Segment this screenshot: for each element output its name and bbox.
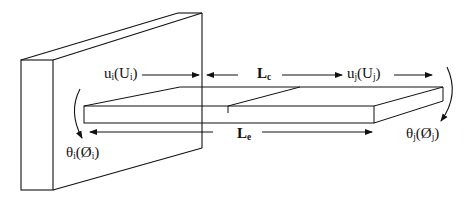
label-le: Le — [237, 126, 251, 143]
label-uj: uj(Uj) — [347, 66, 381, 83]
wall-top-left-edge — [21, 13, 178, 60]
beam-element — [84, 87, 443, 123]
label-theta-i: θi(Øi) — [66, 145, 99, 162]
fixed-wall — [21, 13, 202, 190]
label-lc: Lc — [257, 66, 271, 83]
beam-front-face — [84, 106, 374, 123]
wall-front-face — [21, 60, 53, 190]
cantilever-beam-diagram — [0, 0, 467, 201]
label-ui: ui(Ui) — [104, 66, 138, 83]
label-theta-j: θj(Øj) — [406, 126, 439, 143]
beam-bottom-right-edge — [374, 101, 443, 123]
beam-top-right-edge — [374, 87, 443, 106]
theta-i-curved-arrow — [74, 89, 82, 138]
wall-top-right-edge — [53, 13, 202, 60]
beam-segment-top-divider — [228, 87, 300, 106]
beam-top-left-edge — [84, 87, 180, 106]
